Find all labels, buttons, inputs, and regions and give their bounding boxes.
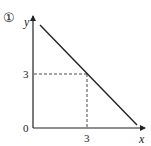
x-axis-label: x [138, 132, 145, 146]
data-line [40, 25, 137, 125]
y-axis-label: y [23, 15, 30, 29]
chart: ① y x 0 3 3 [0, 0, 151, 146]
figure-label: ① [3, 10, 15, 25]
x-tick-label: 3 [84, 132, 90, 144]
origin-label: 0 [23, 122, 29, 134]
y-tick-label: 3 [23, 68, 29, 80]
